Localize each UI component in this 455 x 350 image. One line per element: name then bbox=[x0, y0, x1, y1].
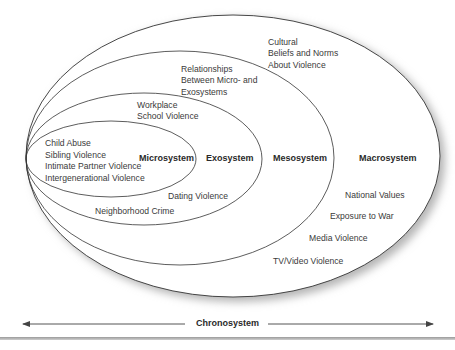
macrosystem-label: Macrosystem bbox=[359, 153, 417, 163]
exosystem-item: School Violence bbox=[137, 111, 198, 122]
exosystem-item: Workplace bbox=[137, 100, 177, 111]
mesosystem-label: Mesosystem bbox=[273, 153, 327, 163]
macrosystem-item: Media Violence bbox=[309, 233, 368, 244]
macrosystem-item: Beliefs and Norms bbox=[268, 48, 338, 59]
macrosystem-item: About Violence bbox=[268, 60, 326, 71]
exosystem-item: Dating Violence bbox=[168, 191, 228, 202]
microsystem-item: Intimate Partner Violence bbox=[45, 161, 141, 172]
exosystem-label: Exosystem bbox=[206, 153, 254, 163]
microsystem-item: Child Abuse bbox=[45, 138, 91, 149]
macrosystem-item: Cultural bbox=[268, 37, 298, 48]
microsystem-item: Intergenerational Violence bbox=[45, 173, 145, 184]
macrosystem-item: Exposure to War bbox=[330, 211, 394, 222]
bottom-divider bbox=[0, 337, 455, 340]
exosystem-item: Neighborhood Crime bbox=[95, 206, 174, 217]
mesosystem-item: Exosystems bbox=[181, 87, 227, 98]
microsystem-label: Microsystem bbox=[139, 153, 194, 163]
mesosystem-item: Relationships bbox=[181, 64, 233, 75]
microsystem-item: Sibling Violence bbox=[45, 150, 106, 161]
chronosystem-label: Chronosystem bbox=[196, 318, 259, 328]
macrosystem-item: TV/Video Violence bbox=[273, 256, 343, 267]
macrosystem-item: National Values bbox=[345, 190, 405, 201]
mesosystem-item: Between Micro- and bbox=[181, 75, 257, 86]
